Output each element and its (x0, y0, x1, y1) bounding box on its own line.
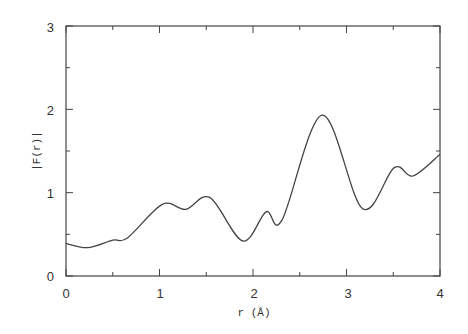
plot-frame (66, 26, 440, 276)
axis-ticks (66, 26, 440, 276)
y-tick-label-2: 2 (47, 103, 54, 118)
y-tick-label-3: 3 (47, 20, 54, 35)
x-tick-label-3: 3 (344, 286, 351, 301)
y-tick-label-1: 1 (47, 186, 54, 201)
x-tick-label-1: 1 (156, 286, 163, 301)
y-tick-label-0: 0 (47, 269, 54, 284)
x-tick-label-4: 4 (436, 286, 443, 301)
y-axis-label: |F(r)| (31, 131, 43, 171)
chart: 0 1 2 3 4 0 1 2 3 r (Å) |F(r)| (0, 0, 468, 334)
x-tick-label-2: 2 (250, 286, 257, 301)
x-tick-label-0: 0 (62, 286, 69, 301)
data-line (66, 115, 440, 248)
x-axis-label: r (Å) (237, 307, 270, 319)
